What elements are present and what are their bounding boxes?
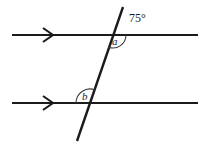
angle-b-label: b — [82, 90, 88, 102]
geometry-diagram: 75° a b — [0, 0, 211, 147]
geometry-canvas: 75° a b — [0, 0, 211, 147]
given-angle-label: 75° — [129, 11, 146, 25]
diagram-background — [0, 0, 211, 147]
angle-a-label: a — [112, 35, 118, 47]
